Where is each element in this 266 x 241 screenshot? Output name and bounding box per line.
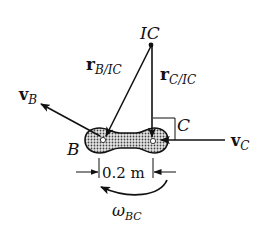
pin-c — [150, 138, 155, 143]
dimension-0-2m: 0.2 m — [76, 158, 176, 182]
dimension-label: 0.2 m — [102, 164, 145, 182]
v-b-label: vB — [18, 85, 37, 107]
omega-bc-arrow — [101, 180, 167, 195]
pin-b — [100, 137, 105, 142]
ic-velocity-diagram: IC rB/IC rC/IC C vB B vC 0.2 m ωBC — [0, 0, 266, 241]
b-label: B — [66, 139, 80, 159]
ic-label: IC — [139, 23, 160, 43]
v-c-label: vC — [230, 131, 249, 153]
v-b-arrow — [41, 104, 100, 136]
r-b-ic-label: rB/IC — [86, 54, 122, 77]
r-c-ic-label: rC/IC — [160, 64, 196, 87]
omega-bc-label: ωBC — [112, 201, 142, 223]
c-label: C — [177, 115, 190, 135]
r-b-ic-arrow — [106, 46, 151, 136]
